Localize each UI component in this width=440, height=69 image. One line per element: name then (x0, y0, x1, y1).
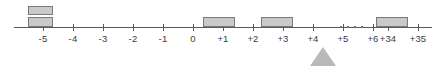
ellipsis-dot (361, 26, 363, 28)
block-at-minus-5-upper (28, 6, 53, 15)
block-at-plus-34 (376, 17, 408, 27)
block-at-minus-5-lower (28, 17, 53, 27)
tick-mark (193, 24, 194, 31)
number-line-diagram: -5 -4 -3 -2 -1 0 +1 +2 +3 +4 +5 +6 +34 +… (0, 0, 440, 69)
block-at-plus-2 (203, 17, 235, 27)
block-at-plus-4 (261, 17, 293, 27)
ellipsis-dot (347, 26, 349, 28)
tick-label-plus-35: +35 (398, 33, 438, 44)
tick-mark (373, 24, 374, 31)
ellipsis-dot (340, 26, 342, 28)
axis-break-ellipsis (340, 22, 363, 32)
tick-mark (313, 24, 314, 31)
tick-mark (418, 24, 419, 31)
tick-mark (103, 24, 104, 31)
tick-mark (73, 24, 74, 31)
tick-mark (253, 24, 254, 31)
tick-mark (133, 24, 134, 31)
tick-mark (163, 24, 164, 31)
ellipsis-dot (354, 26, 356, 28)
triangle-pointer-icon (310, 47, 336, 66)
